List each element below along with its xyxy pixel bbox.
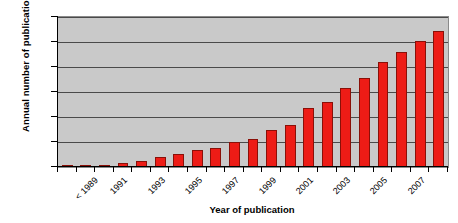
x-tick-label: 1999: [257, 175, 278, 196]
bar: [415, 41, 426, 167]
x-tick-label: 1991: [108, 175, 129, 196]
gridline: [58, 117, 448, 118]
x-tick-mark: [187, 167, 188, 172]
bar: [210, 148, 221, 167]
x-tick-mark: [224, 167, 225, 172]
x-axis-title: Year of publication: [57, 204, 447, 215]
bar: [359, 78, 370, 167]
x-tick-mark: [206, 167, 207, 172]
y-axis-title: Annual number of publications: [20, 0, 31, 146]
x-tick-mark: [354, 167, 355, 172]
bar: [433, 31, 444, 167]
x-tick-mark: [410, 167, 411, 172]
bar: [340, 88, 351, 168]
gridline: [58, 92, 448, 93]
gridline: [58, 42, 448, 43]
x-tick-label: 2007: [405, 175, 426, 196]
x-tick-mark: [57, 167, 58, 172]
x-tick-mark: [150, 167, 151, 172]
bar: [396, 52, 407, 167]
x-tick-mark: [94, 167, 95, 172]
x-tick-mark: [280, 167, 281, 172]
x-tick-mark: [261, 167, 262, 172]
bar: [173, 154, 184, 167]
x-tick-label: 2001: [294, 175, 315, 196]
bar: [266, 130, 277, 167]
gridline: [58, 67, 448, 68]
x-tick-label: 1997: [220, 175, 241, 196]
bar: [248, 139, 259, 167]
bar: [229, 142, 240, 167]
bar: [303, 108, 314, 168]
x-tick-mark: [131, 167, 132, 172]
x-tick-mark: [373, 167, 374, 172]
x-tick-label: 2003: [331, 175, 352, 196]
x-tick-mark: [113, 167, 114, 172]
x-tick-mark: [298, 167, 299, 172]
gridline: [58, 17, 448, 18]
plot-area: [57, 16, 449, 168]
x-tick-mark: [391, 167, 392, 172]
x-tick-mark: [76, 167, 77, 172]
x-tick-mark: [336, 167, 337, 172]
x-tick-mark: [447, 167, 448, 172]
x-tick-label: < 1989: [73, 175, 100, 202]
bar: [192, 150, 203, 167]
x-tick-mark: [317, 167, 318, 172]
x-axis-line: [57, 166, 448, 167]
x-tick-label: 2005: [368, 175, 389, 196]
x-tick-mark: [168, 167, 169, 172]
x-tick-mark: [243, 167, 244, 172]
bar: [378, 62, 389, 167]
x-tick-label: 1993: [145, 175, 166, 196]
y-axis-line: [57, 16, 58, 167]
bar: [285, 125, 296, 167]
bar: [322, 102, 333, 168]
bar-chart-figure: Annual number of publications 0100200300…: [0, 0, 458, 223]
x-tick-mark: [428, 167, 429, 172]
x-tick-label: 1995: [183, 175, 204, 196]
